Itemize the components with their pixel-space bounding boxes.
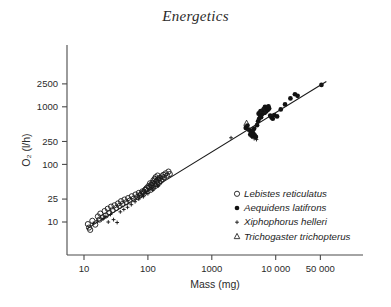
y-tick-label: 2500 [37,78,58,89]
y-axis-ticks: 102510025010002500 [37,78,67,227]
legend-label-aequidens-latifrons: Aequidens latifrons [243,202,327,213]
y-tick-label: 250 [42,136,58,147]
series-lebistes-reticulatus [85,169,172,232]
series-xiphophorus-helleri [91,135,258,225]
y-axis-title: O₂ (l/h) [20,133,32,166]
plot-area: 102510025010002500 10100100010 00050 000… [0,0,391,307]
legend-label-xiphophorus-helleri: Xiphophorus helleri [243,216,328,227]
legend-label-trichogaster-trichopterus: Trichogaster trichopterus [244,231,351,242]
legend-label-lebistes-reticulatus: Lebistes reticulatus [244,188,327,199]
data-point [295,93,300,98]
y-tick-label: 10 [47,216,58,227]
data-point [106,220,110,224]
y-tick-label: 25 [47,193,58,204]
data-point [122,208,126,212]
data-point [126,205,130,209]
x-axis-title: Mass (mg) [190,278,240,290]
y-tick-label: 1000 [37,101,58,112]
data-point [112,218,116,222]
legend-marker-open-circle [234,191,239,196]
y-tick-label: 100 [42,159,58,170]
energetics-chart-figure: Energetics 102510025010002500 1010010001… [0,0,391,307]
legend-marker-filled-circle [235,206,240,211]
x-axis-ticks: 10100100010 00050 000 [79,255,335,274]
x-tick-label: 100 [140,263,156,274]
legend-marker-triangle [234,233,240,238]
x-tick-label: 50 000 [306,263,335,274]
data-point [118,210,122,214]
data-point [288,96,293,101]
chart-legend: Lebistes reticulatusAequidens latifronsX… [234,188,350,242]
data-point [251,128,256,133]
data-point [275,114,280,119]
legend-marker-plus [235,220,239,224]
x-tick-label: 1000 [201,263,222,274]
x-tick-label: 10 000 [261,263,290,274]
x-tick-label: 10 [79,263,90,274]
data-point [115,221,119,225]
